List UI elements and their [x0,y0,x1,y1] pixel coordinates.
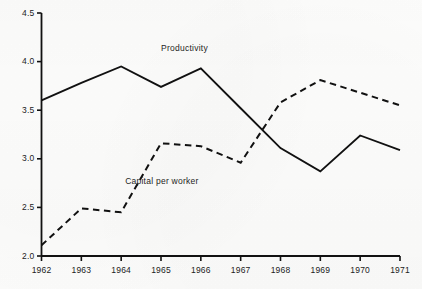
y-tick-label: 4.5 [2,8,35,18]
y-tick-label: 3.0 [2,153,35,163]
x-tick-label: 1962 [24,265,60,275]
y-tick-label: 2.5 [2,202,35,212]
x-tick-label: 1965 [143,265,179,275]
x-tick-label: 1964 [103,265,139,275]
series-productivity-line [42,66,401,171]
y-tick-label: 4.0 [2,56,35,66]
x-tick-label: 1970 [342,265,378,275]
x-tick-label: 1963 [63,265,99,275]
y-tick-label: 3.5 [2,105,35,115]
line-chart [0,0,422,289]
series-capital-per-worker-line [42,80,401,245]
figure-container: 2.02.53.03.54.04.5 196219631964196519661… [0,0,422,289]
series-annotation-label: Capital per worker [125,176,198,186]
y-tick-label: 2.0 [2,251,35,261]
x-tick-label: 1967 [223,265,259,275]
series-annotation-label: Productivity [161,43,208,53]
x-tick-label: 1969 [302,265,338,275]
x-tick-label: 1968 [263,265,299,275]
x-tick-label: 1971 [382,265,418,275]
x-tick-label: 1966 [183,265,219,275]
